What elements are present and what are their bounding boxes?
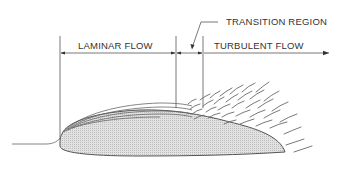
incoming-streamline <box>12 136 62 144</box>
laminar-flow-label: LAMINAR FLOW <box>78 40 153 51</box>
turbulent-flow-label: TURBULENT FLOW <box>214 40 304 51</box>
transition-region-label: TRANSITION REGION <box>226 16 327 27</box>
airflow-diagram: LAMINAR FLOW TRANSITION REGION TURBULENT… <box>0 0 354 173</box>
